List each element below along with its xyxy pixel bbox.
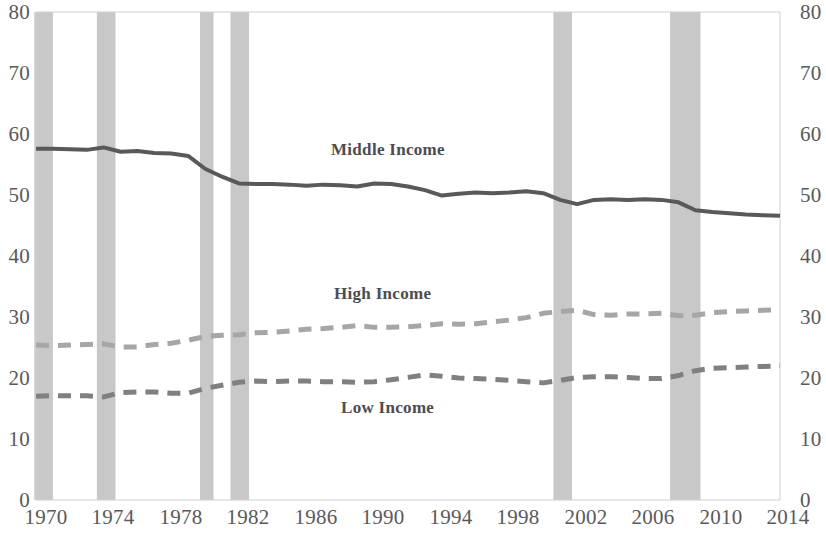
x-axis-tick-2014: 2014 bbox=[753, 505, 823, 530]
y-axis-right-tick-10: 10 bbox=[800, 427, 826, 452]
axis-lines bbox=[36, 12, 780, 500]
x-axis-tick-1998: 1998 bbox=[483, 505, 553, 530]
recession-band bbox=[97, 12, 116, 500]
y-axis-left-tick-40: 40 bbox=[0, 244, 30, 269]
recession-band bbox=[34, 12, 53, 500]
y-axis-right-tick-30: 30 bbox=[800, 305, 826, 330]
y-axis-left-tick-30: 30 bbox=[0, 305, 30, 330]
x-axis-tick-1974: 1974 bbox=[78, 505, 148, 530]
x-axis-tick-1986: 1986 bbox=[281, 505, 351, 530]
data-series bbox=[36, 147, 780, 396]
recession-band bbox=[553, 12, 572, 500]
y-axis-right-tick-50: 50 bbox=[800, 183, 826, 208]
recession-band bbox=[670, 12, 700, 500]
y-axis-right-tick-80: 80 bbox=[800, 0, 826, 25]
series-line-low-income bbox=[36, 366, 780, 397]
x-axis-tick-1982: 1982 bbox=[213, 505, 283, 530]
x-axis-tick-1990: 1990 bbox=[348, 505, 418, 530]
y-axis-left-tick-80: 80 bbox=[0, 0, 30, 25]
x-axis-tick-2010: 2010 bbox=[686, 505, 756, 530]
series-label-middle-income: Middle Income bbox=[331, 140, 445, 160]
y-axis-right-tick-60: 60 bbox=[800, 122, 826, 147]
x-axis-tick-1978: 1978 bbox=[146, 505, 216, 530]
series-line-high-income bbox=[36, 310, 780, 347]
y-axis-left-tick-10: 10 bbox=[0, 427, 30, 452]
series-label-low-income: Low Income bbox=[341, 398, 434, 418]
x-axis-tick-2006: 2006 bbox=[618, 505, 688, 530]
recession-band bbox=[200, 12, 214, 500]
y-axis-left-tick-50: 50 bbox=[0, 183, 30, 208]
y-axis-right-tick-20: 20 bbox=[800, 366, 826, 391]
recession-band bbox=[230, 12, 249, 500]
y-axis-left-tick-60: 60 bbox=[0, 122, 30, 147]
recession-bands bbox=[34, 12, 700, 500]
x-axis-tick-1970: 1970 bbox=[11, 505, 81, 530]
y-axis-right-tick-70: 70 bbox=[800, 61, 826, 86]
x-axis-tick-2002: 2002 bbox=[551, 505, 621, 530]
y-axis-right-tick-40: 40 bbox=[800, 244, 826, 269]
series-label-high-income: High Income bbox=[334, 284, 431, 304]
y-axis-left-tick-20: 20 bbox=[0, 366, 30, 391]
y-axis-left-tick-70: 70 bbox=[0, 61, 30, 86]
x-axis-tick-1994: 1994 bbox=[416, 505, 486, 530]
